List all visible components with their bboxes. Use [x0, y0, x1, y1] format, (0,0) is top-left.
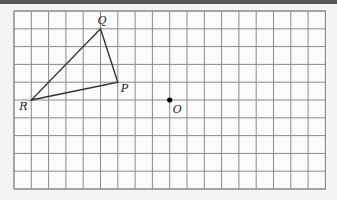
grid-diagram: Q P R O [0, 0, 337, 200]
label-o: O [173, 103, 182, 116]
label-r: R [18, 100, 27, 113]
label-p: P [120, 82, 129, 95]
point-o [167, 97, 172, 102]
label-q: Q [98, 14, 107, 27]
